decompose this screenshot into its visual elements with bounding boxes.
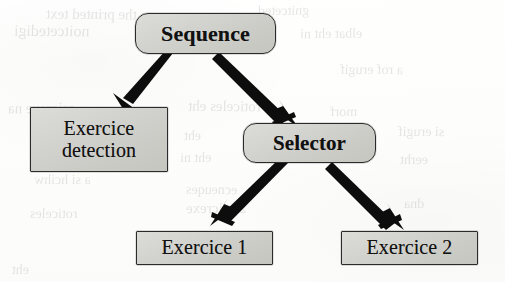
node-selector-label: Selector — [273, 132, 346, 155]
node-exercice-detection-label-line-2: detection — [62, 139, 136, 161]
ghost-text-line: eht ni — [180, 150, 212, 166]
ghost-text-line: roticeles eht — [188, 98, 261, 116]
node-exercice-1[interactable]: Exercice 1 — [136, 231, 273, 265]
node-exercice-1-label: Exercice 1 — [162, 237, 248, 259]
node-exercice-detection-label-line-1: Exercice — [64, 117, 135, 139]
ghost-text-line: dna — [404, 196, 424, 212]
ghost-text-line: the printed text — [46, 6, 137, 24]
node-exercice-2-label: Exercice 2 — [367, 237, 453, 259]
node-sequence-label: Sequence — [161, 22, 250, 46]
ghost-text-line: morf — [330, 104, 357, 120]
ghost-text-line: a si hcihw — [34, 172, 91, 188]
ghost-text-line: si erugif — [398, 124, 444, 140]
ghost-text-line: a rof erugif — [340, 62, 403, 78]
node-sequence[interactable]: Sequence — [135, 13, 276, 54]
ghost-text-line: 2 esicrexe — [186, 200, 247, 217]
ghost-text-line: eht — [184, 128, 201, 144]
ghost-text-line: noitcetedigi — [14, 22, 90, 41]
node-exercice-detection[interactable]: Exercice detection — [30, 107, 168, 172]
ghost-text-line: elbat eht ni — [300, 26, 362, 43]
ghost-text-line: eerht — [400, 152, 428, 168]
node-selector[interactable]: Selector — [243, 123, 376, 163]
ghost-text-line: roticeles — [30, 206, 78, 222]
ghost-text-line: eht — [12, 262, 29, 278]
edge-selector-to-exercice-1 — [210, 157, 288, 226]
ghost-text-line: ecneuqes — [186, 182, 237, 198]
node-exercice-2[interactable]: Exercice 2 — [341, 231, 478, 265]
edge-sequence-to-selector — [212, 52, 298, 127]
edge-selector-to-exercice-2 — [325, 162, 404, 230]
node-exercice-detection-label: Exercice detection — [62, 118, 136, 161]
diagram-canvas: the printed textgnitcetednoitcetedigielb… — [0, 0, 505, 282]
